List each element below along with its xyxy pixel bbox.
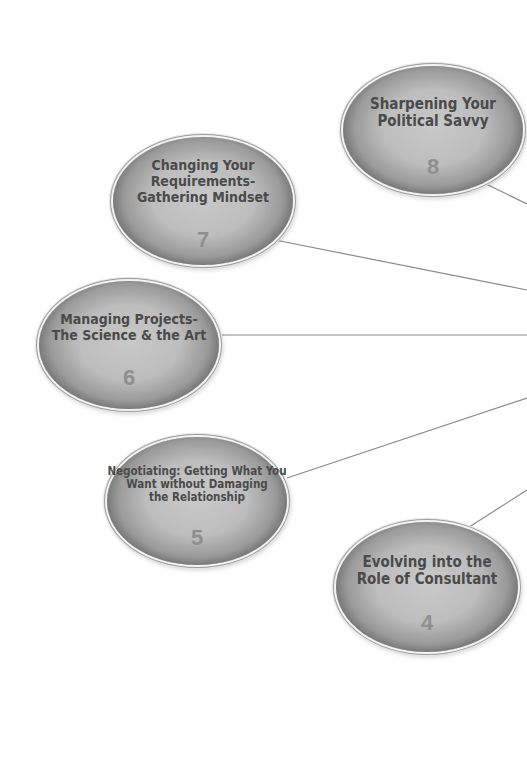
connector-4 bbox=[466, 490, 527, 529]
node-number: 8 bbox=[343, 154, 523, 180]
title-line: Requirements- bbox=[113, 173, 293, 189]
node-title: Managing Projects- The Science & the Art bbox=[39, 311, 219, 343]
title-line: Role of Consultant bbox=[336, 571, 518, 588]
title-line: Political Savvy bbox=[343, 113, 523, 130]
connector-8 bbox=[484, 183, 527, 204]
node-title: Evolving into the Role of Consultant bbox=[336, 554, 518, 589]
node-title: Sharpening Your Political Savvy bbox=[343, 96, 523, 131]
title-line: The Science & the Art bbox=[39, 327, 219, 343]
connector-5 bbox=[287, 398, 527, 478]
node-number: 6 bbox=[39, 365, 219, 391]
title-line: Changing Your bbox=[113, 157, 293, 173]
title-line: Sharpening Your bbox=[343, 96, 523, 113]
node-7-requirements-mindset: Changing Your Requirements- Gathering Mi… bbox=[113, 137, 293, 265]
connector-7 bbox=[275, 240, 527, 290]
node-number: 5 bbox=[107, 525, 287, 551]
title-line: Gathering Mindset bbox=[113, 189, 293, 205]
node-5-negotiating: Negotiating: Getting What You Want witho… bbox=[107, 437, 287, 565]
title-line: Evolving into the bbox=[336, 554, 518, 571]
node-title: Changing Your Requirements- Gathering Mi… bbox=[113, 157, 293, 205]
title-line: Managing Projects- bbox=[39, 311, 219, 327]
node-6-managing-projects: Managing Projects- The Science & the Art… bbox=[39, 281, 219, 409]
node-4-consultant: Evolving into the Role of Consultant 4 bbox=[336, 522, 518, 652]
node-8-political-savvy: Sharpening Your Political Savvy 8 bbox=[343, 66, 523, 194]
node-number: 4 bbox=[336, 610, 518, 636]
node-title: Negotiating: Getting What You Want witho… bbox=[107, 465, 287, 505]
node-number: 7 bbox=[113, 227, 293, 253]
title-line: the Relationship bbox=[107, 491, 287, 504]
